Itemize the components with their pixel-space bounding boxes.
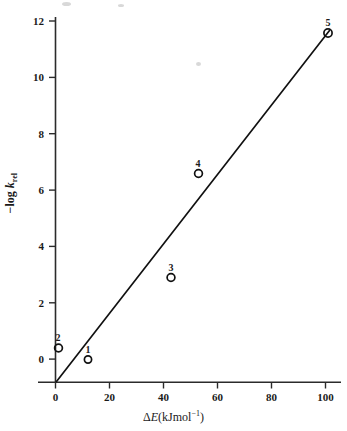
x-tick-label-20: 20 — [104, 392, 115, 403]
y-tick-label-12: 12 — [28, 16, 44, 27]
y-tick-label-4: 4 — [28, 241, 44, 252]
y-axis-title: −log krel — [3, 158, 19, 228]
regression-line — [57, 31, 330, 382]
x-tick-label-40: 40 — [158, 392, 169, 403]
x-axis-title-text: ΔE(kJmol−1) — [143, 410, 204, 424]
x-tick-label-100: 100 — [317, 392, 334, 403]
scatter-plot-figure: 12 10 8 6 4 2 0 0 20 40 60 80 100 1 2 3 … — [0, 0, 347, 431]
data-point-4 — [195, 170, 203, 178]
x-axis-ticks — [56, 382, 326, 388]
data-point-markers — [55, 29, 333, 363]
point-annotation-4: 4 — [196, 159, 201, 169]
x-tick-label-80: 80 — [266, 392, 277, 403]
point-annotation-5: 5 — [326, 18, 331, 28]
x-tick-label-0: 0 — [53, 392, 59, 403]
data-point-1 — [84, 356, 91, 363]
point-annotation-2: 2 — [56, 333, 61, 343]
y-tick-label-8: 8 — [28, 129, 44, 140]
data-point-3 — [167, 274, 175, 282]
y-axis-title-text: −log krel — [3, 173, 17, 213]
y-axis-ticks — [49, 21, 56, 359]
y-tick-label-2: 2 — [28, 298, 44, 309]
plot-canvas — [0, 0, 347, 431]
x-tick-label-60: 60 — [212, 392, 223, 403]
x-axis-title: ΔE(kJmol−1) — [0, 409, 347, 425]
y-tick-label-10: 10 — [28, 72, 44, 83]
y-tick-label-6: 6 — [28, 185, 44, 196]
point-annotation-3: 3 — [169, 263, 174, 273]
point-annotation-1: 1 — [86, 345, 91, 355]
y-tick-label-0: 0 — [28, 354, 44, 365]
